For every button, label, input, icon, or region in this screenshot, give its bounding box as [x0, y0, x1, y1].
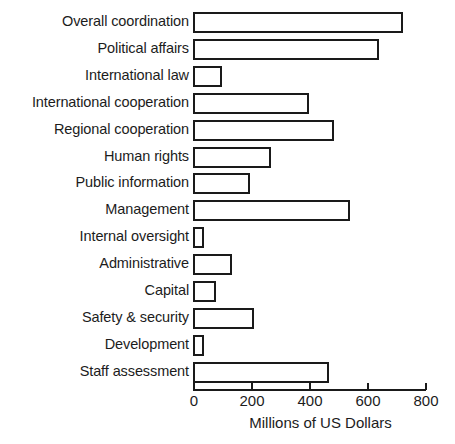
bar-row: Safety & security: [0, 305, 455, 332]
bar-row: Administrative: [0, 251, 455, 278]
category-label: Regional cooperation: [54, 117, 193, 144]
bar: [193, 39, 379, 60]
category-label: Internal oversight: [80, 224, 193, 251]
bar: [193, 93, 309, 114]
bar: [193, 335, 204, 356]
bar: [193, 254, 232, 275]
category-label: Management: [105, 197, 193, 224]
bar: [193, 66, 222, 87]
x-axis-title-label: Millions of US Dollars: [249, 414, 392, 431]
bar-row: Political affairs: [0, 36, 455, 63]
category-label: International cooperation: [32, 90, 193, 117]
bar-chart: Overall coordinationPolitical affairsInt…: [0, 0, 455, 444]
bar-row: Staff assessment: [0, 359, 455, 386]
category-label: International law: [85, 63, 193, 90]
x-axis-tick: [309, 383, 311, 390]
bar: [193, 173, 250, 194]
bar: [193, 12, 403, 33]
bar-row: Development: [0, 332, 455, 359]
x-axis-tick-label: 400: [297, 392, 322, 409]
category-label: Administrative: [99, 251, 193, 278]
category-label: Staff assessment: [80, 359, 193, 386]
bar-row: International law: [0, 63, 455, 90]
category-label: Capital: [145, 278, 193, 305]
category-label: Human rights: [104, 144, 193, 171]
category-label: Public information: [76, 170, 193, 197]
bar-row: International cooperation: [0, 90, 455, 117]
x-axis-tick: [425, 383, 427, 390]
bar: [193, 308, 254, 329]
bar: [193, 362, 329, 383]
x-axis-tick: [251, 383, 253, 390]
bar-row: Management: [0, 197, 455, 224]
category-label: Political affairs: [97, 36, 193, 63]
category-label: Overall coordination: [62, 9, 193, 36]
x-axis-tick-label: 600: [355, 392, 380, 409]
x-axis-tick-label: 200: [239, 392, 264, 409]
bar-row: Public information: [0, 170, 455, 197]
bar-row: Regional cooperation: [0, 117, 455, 144]
x-axis-tick-label: 0: [190, 392, 198, 409]
bar: [193, 227, 204, 248]
bar-row: Internal oversight: [0, 224, 455, 251]
bar-row: Human rights: [0, 144, 455, 171]
bar-row: Capital: [0, 278, 455, 305]
bar: [193, 120, 334, 141]
x-axis-tick-label: 800: [413, 392, 438, 409]
x-axis-tick: [367, 383, 369, 390]
x-axis-tick: [193, 383, 195, 390]
bar-row: Overall coordination: [0, 9, 455, 36]
bar: [193, 200, 350, 221]
category-label: Development: [105, 332, 193, 359]
category-label: Safety & security: [82, 305, 193, 332]
bar: [193, 147, 271, 168]
x-axis-title: Millions of US Dollars: [0, 414, 455, 431]
bar: [193, 281, 216, 302]
